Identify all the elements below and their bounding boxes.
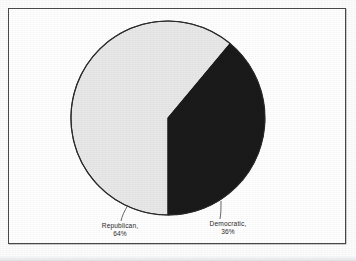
chart-plot-area: Republican, 64% Democratic, 36% bbox=[0, 0, 356, 261]
pie-chart-figure: Republican, 64% Democratic, 36% bbox=[0, 0, 356, 261]
pie-label-republican: Republican, 64% bbox=[78, 222, 162, 238]
republican-leader-line bbox=[121, 205, 128, 221]
pie-chart-svg bbox=[0, 0, 356, 261]
pie-label-democratic-value: 36% bbox=[186, 228, 270, 236]
democratic-leader-line bbox=[220, 201, 221, 219]
pie-label-democratic: Democratic, 36% bbox=[186, 220, 270, 236]
pie-label-democratic-name: Democratic, bbox=[186, 220, 270, 228]
pie-label-republican-name: Republican, bbox=[78, 222, 162, 230]
pie-label-republican-value: 64% bbox=[78, 230, 162, 238]
